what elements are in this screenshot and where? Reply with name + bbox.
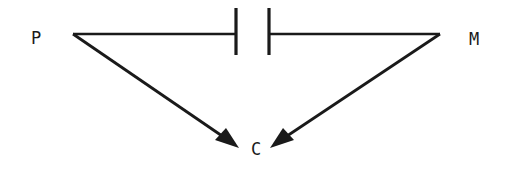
diagram-canvas: P M C (0, 0, 510, 174)
edge-p-to-c-line (73, 34, 228, 140)
edge-m-to-c-line (281, 34, 440, 140)
edge-m-to-c-arrowhead-icon (270, 128, 294, 148)
node-label-m: M (469, 29, 479, 49)
node-label-p: P (31, 28, 41, 48)
diagram-svg: P M C (0, 0, 510, 174)
edge-p-to-c-arrowhead-icon (215, 128, 239, 148)
node-label-c: C (251, 139, 261, 159)
